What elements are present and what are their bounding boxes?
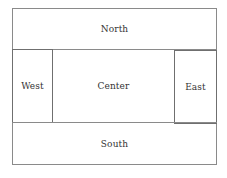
region-west: West bbox=[12, 49, 53, 123]
region-east-label: East bbox=[185, 82, 206, 92]
region-center-label: Center bbox=[98, 81, 130, 91]
region-west-label: West bbox=[21, 81, 43, 91]
region-north: North bbox=[12, 8, 217, 50]
region-south-label: South bbox=[101, 139, 128, 149]
region-south: South bbox=[12, 122, 217, 165]
region-north-label: North bbox=[101, 24, 129, 34]
region-east: East bbox=[174, 50, 217, 124]
region-center: Center bbox=[52, 50, 175, 122]
